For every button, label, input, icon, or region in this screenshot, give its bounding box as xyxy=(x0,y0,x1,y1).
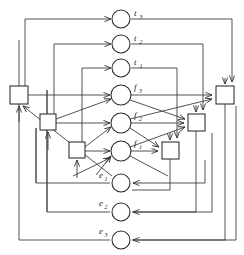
diag-e1line-to-f1 xyxy=(73,158,110,176)
box-left-1[interactable] xyxy=(69,142,85,158)
drop-boxR3-to-e3 xyxy=(132,104,225,240)
loop-t1 xyxy=(82,68,177,150)
node-e1[interactable] xyxy=(112,174,130,192)
node-e1-group[interactable]: e 1 xyxy=(99,170,130,192)
node-e3[interactable] xyxy=(112,231,130,249)
node-t2-group[interactable]: t 2 xyxy=(112,33,143,53)
box-right-2[interactable] xyxy=(188,114,205,131)
node-f1-label: f xyxy=(134,138,138,148)
node-t3-group[interactable]: t 3 xyxy=(112,8,143,28)
loop-t3 xyxy=(25,19,232,95)
node-f1-group[interactable]: f 1 xyxy=(111,138,142,161)
node-t3-label: t xyxy=(134,8,137,18)
node-f2-label: f xyxy=(134,110,138,120)
node-e1-subscript: 1 xyxy=(105,176,108,182)
node-f1-subscript: 1 xyxy=(139,144,142,150)
box-left-2[interactable] xyxy=(40,114,56,130)
node-t1-subscript: 1 xyxy=(140,63,143,69)
network-diagram-svg: t 3 t 2 t 1 f 3 f 2 f 1 xyxy=(0,0,244,255)
diag-boxL1-to-f2 xyxy=(85,127,111,147)
node-t3[interactable] xyxy=(112,10,130,28)
node-e3-label: e xyxy=(99,226,103,236)
node-f3[interactable] xyxy=(111,85,131,105)
node-e3-group[interactable]: e 3 xyxy=(99,226,130,249)
node-t3-subscript: 3 xyxy=(139,14,143,20)
rail-e3-left xyxy=(19,40,110,240)
node-f2[interactable] xyxy=(111,113,131,133)
node-f3-subscript: 3 xyxy=(138,88,142,94)
node-f3-label: f xyxy=(134,82,138,92)
node-f1[interactable] xyxy=(111,141,131,161)
node-e2-label: e xyxy=(99,198,103,208)
box-right-3[interactable] xyxy=(216,86,234,104)
node-t2[interactable] xyxy=(112,35,130,53)
node-f2-subscript: 2 xyxy=(139,116,142,122)
node-e3-subscript: 3 xyxy=(104,232,108,238)
loop-t2 xyxy=(54,44,203,122)
node-e1-label: e xyxy=(99,170,103,180)
node-t2-label: t xyxy=(134,33,137,43)
node-t2-subscript: 2 xyxy=(140,39,143,45)
node-t1[interactable] xyxy=(112,59,130,77)
node-e2-group[interactable]: e 2 xyxy=(99,198,130,221)
node-f2-group[interactable]: f 2 xyxy=(111,110,142,133)
box-right-1[interactable] xyxy=(162,142,179,159)
diag-boxL2-to-f3 xyxy=(56,99,111,119)
node-e2-subscript: 2 xyxy=(105,204,108,210)
box-left-3[interactable] xyxy=(10,86,28,104)
node-t1-label: t xyxy=(134,57,137,67)
node-t1-group[interactable]: t 1 xyxy=(112,57,143,77)
node-f3-group[interactable]: f 3 xyxy=(111,82,142,105)
diagram-canvas: t 3 t 2 t 1 f 3 f 2 f 1 xyxy=(0,0,244,255)
node-e2[interactable] xyxy=(112,203,130,221)
